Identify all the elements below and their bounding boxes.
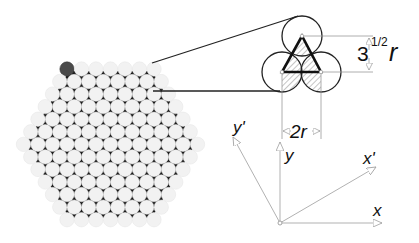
fiber-circle: [111, 125, 125, 139]
fiber-circle: [45, 87, 59, 101]
fiber-circle: [89, 137, 103, 151]
fiber-circle: [96, 99, 110, 113]
fiber-circle: [31, 112, 45, 126]
fiber-circle: [154, 74, 168, 88]
fiber-circle: [82, 175, 96, 189]
fiber-packing-diagram: 3 1/2 r 2r x y x' y': [0, 0, 419, 243]
fiber-circle: [125, 125, 139, 139]
hatched-sectors: [282, 36, 321, 93]
fiber-circle: [82, 200, 96, 214]
fiber-circle: [147, 187, 161, 201]
unit-cell: [262, 16, 341, 93]
highlighted-fiber: [60, 62, 74, 76]
fiber-circle: [74, 212, 88, 226]
fiber-circle: [140, 200, 154, 214]
fiber-circle: [67, 150, 81, 164]
fiber-circle: [38, 175, 52, 189]
fiber-circle: [176, 162, 190, 176]
fiber-circle: [147, 112, 161, 126]
fiber-circle: [103, 212, 117, 226]
fiber-circle: [82, 125, 96, 139]
fiber-circle: [161, 112, 175, 126]
fiber-circle: [89, 162, 103, 176]
fiber-circle: [169, 125, 183, 139]
fiber-circle: [16, 137, 30, 151]
fiber-circle: [103, 187, 117, 201]
fiber-circle: [96, 150, 110, 164]
fiber-circle: [154, 175, 168, 189]
axis-y-label: y: [284, 146, 295, 165]
fiber-circle: [125, 200, 139, 214]
axis-x-label: x: [372, 201, 382, 220]
fiber-circle: [67, 74, 81, 88]
fiber-circle: [103, 112, 117, 126]
fiber-circle: [140, 175, 154, 189]
fiber-circle: [53, 150, 67, 164]
fiber-circle: [89, 212, 103, 226]
fiber-circle: [60, 212, 74, 226]
fiber-circle: [140, 125, 154, 139]
fiber-circle: [118, 62, 132, 76]
fiber-circle: [125, 99, 139, 113]
fiber-circle: [82, 150, 96, 164]
fiber-circle: [161, 87, 175, 101]
fiber-circle: [161, 187, 175, 201]
fiber-circle: [60, 187, 74, 201]
axis-y-prime: [233, 137, 280, 223]
fiber-circle: [53, 99, 67, 113]
fiber-circle: [45, 162, 59, 176]
fiber-circle: [111, 74, 125, 88]
fiber-circle: [118, 87, 132, 101]
fiber-circle: [67, 200, 81, 214]
axis-x-prime: [280, 167, 376, 223]
fiber-circle: [154, 150, 168, 164]
fiber-circle: [74, 162, 88, 176]
fiber-circle: [118, 137, 132, 151]
fiber-circle: [111, 200, 125, 214]
height-label-base: 3: [357, 42, 369, 65]
fiber-circle: [147, 62, 161, 76]
fiber-circle: [67, 175, 81, 189]
axis-y-prime-label: y': [232, 118, 246, 137]
fiber-circle: [31, 162, 45, 176]
fiber-circle: [103, 87, 117, 101]
fiber-circle: [176, 112, 190, 126]
fiber-circle: [125, 150, 139, 164]
fiber-circle: [190, 137, 204, 151]
fiber-circle: [89, 187, 103, 201]
fiber-circle: [132, 62, 146, 76]
fiber-circle: [31, 137, 45, 151]
fiber-circle: [169, 99, 183, 113]
fiber-circle: [132, 212, 146, 226]
fiber-circle: [53, 125, 67, 139]
fiber-circle: [96, 200, 110, 214]
fiber-circle: [147, 212, 161, 226]
fiber-circle: [45, 187, 59, 201]
fiber-circle: [147, 87, 161, 101]
fiber-circle: [118, 187, 132, 201]
height-label-exponent: 1/2: [371, 35, 388, 49]
fiber-circle: [38, 99, 52, 113]
fiber-circle: [169, 150, 183, 164]
fiber-circle: [169, 175, 183, 189]
fiber-circle: [161, 162, 175, 176]
fiber-circle: [53, 74, 67, 88]
fiber-circle: [183, 150, 197, 164]
fiber-circle: [45, 137, 59, 151]
fiber-circle: [74, 137, 88, 151]
fiber-circle: [96, 74, 110, 88]
fiber-circle: [103, 162, 117, 176]
callout-line-top: [152, 16, 298, 63]
fiber-circle: [82, 99, 96, 113]
fiber-circle: [132, 187, 146, 201]
fiber-circle: [118, 112, 132, 126]
fiber-circle: [74, 62, 88, 76]
height-label-variable: r: [389, 38, 399, 66]
fiber-circle: [89, 62, 103, 76]
fiber-circle: [118, 162, 132, 176]
fiber-circle: [154, 200, 168, 214]
fiber-circle: [60, 137, 74, 151]
fiber-circle: [74, 87, 88, 101]
axis-x-prime-label: x': [362, 149, 376, 168]
fiber-circle: [38, 125, 52, 139]
